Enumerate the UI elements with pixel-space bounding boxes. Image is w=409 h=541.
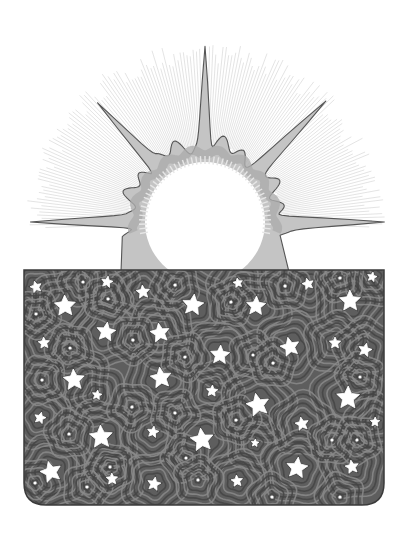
illustration <box>0 0 409 541</box>
night-sky-panel <box>4 245 406 522</box>
sun-core <box>145 162 265 282</box>
